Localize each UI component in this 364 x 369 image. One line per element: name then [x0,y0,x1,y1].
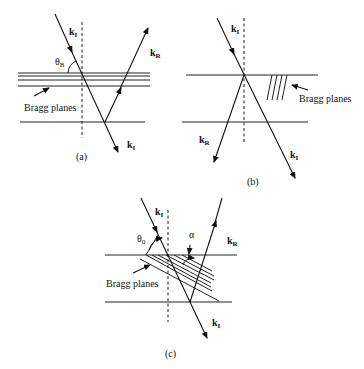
reflected-ray-arrow-mid [105,88,121,122]
kr-label: kR [227,235,239,248]
ki-label-top: kI [155,206,164,219]
panel-b-caption: (b) [247,176,259,188]
kr-label: kR [150,47,162,60]
panel-a-caption: (a) [76,151,87,163]
bragg-planes-pointer-arrow [34,88,49,96]
panel-a: kI kR kI θB Bragg planes (a) [18,14,162,163]
bragg-plane-line [158,255,211,283]
transmitted-ray-arrow [232,50,295,178]
bragg-plane-line [152,255,211,287]
bragg-diffraction-figure: kI kR kI θB Bragg planes (a) kI kR kI Br… [0,0,364,369]
bragg-planes-label: Bragg planes [299,93,352,104]
reflected-ray-arrow [119,28,148,91]
transmitted-ray-arrow [70,48,118,152]
bragg-planes-label: Bragg planes [24,102,77,113]
bragg-plane-line [182,255,212,271]
transmitted-ray-arrow [190,302,207,338]
angle-arc-theta-b [68,61,76,73]
ki-label-bottom: kI [212,317,221,330]
alpha-pointer-arrow [189,245,190,254]
theta-b-label: θB [55,56,65,69]
bragg-plane-line [267,75,272,100]
bragg-planes-label: Bragg planes [106,278,159,289]
ki-label-top: kI [69,26,78,39]
ki-label-bottom: kI [290,149,299,162]
bragg-plane-line [272,75,277,100]
alpha-label: α [189,229,195,240]
bragg-plane-line [174,255,214,276]
ki-label-bottom: kI [127,139,136,152]
theta-0-label: θ0 [137,233,146,246]
reflected-ray [214,198,222,226]
bragg-planes-pointer-arrow [133,265,150,273]
plane-normal-edge [146,235,158,255]
bragg-plane-line [282,75,287,100]
bragg-plane-line [277,75,282,100]
angle-arc-alpha [183,258,194,265]
kr-label: kR [199,134,211,147]
bragg-planes-pointer-arrow [292,85,308,90]
ki-label-top: kI [231,23,240,36]
panel-b: kI kR kI Bragg planes (b) [182,18,352,188]
panel-c-caption: (c) [165,348,176,360]
panel-c: kI kR kI θ0 α Bragg planes (c) [105,198,239,360]
reflected-ray-arrow [214,75,244,162]
